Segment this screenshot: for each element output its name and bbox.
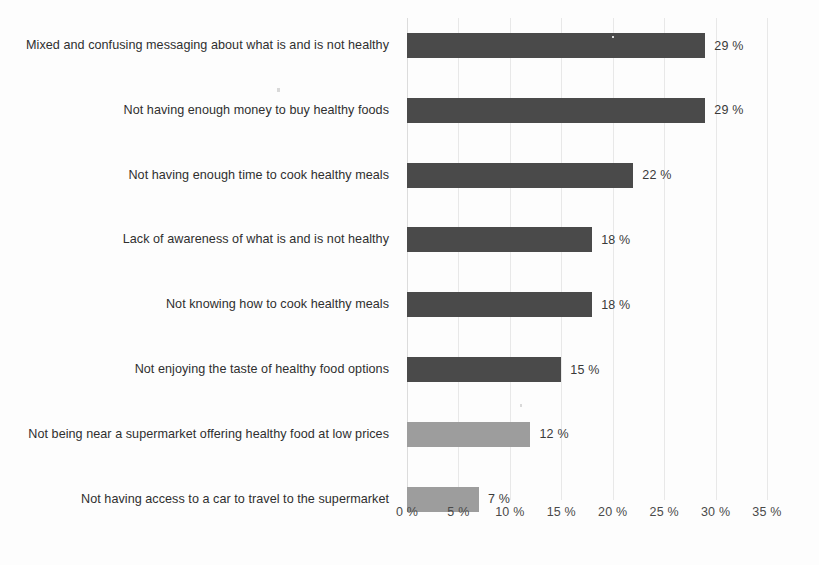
category-label: Lack of awareness of what is and is not … (17, 232, 389, 247)
bar-value-label: 22 % (642, 168, 671, 182)
bar-row[interactable]: 12 % (407, 422, 767, 447)
bar[interactable] (407, 163, 633, 188)
bar[interactable] (407, 33, 705, 58)
x-tick-label-25: 25 % (649, 505, 678, 519)
bar-row[interactable]: 18 % (407, 292, 767, 317)
category-label: Not being near a supermarket offering he… (17, 427, 389, 442)
bar-value-label: 29 % (714, 103, 743, 117)
plot-area: 29 %29 %22 %18 %18 %15 %12 %7 % (407, 18, 767, 500)
bar-value-label: 12 % (539, 427, 568, 441)
bar-value-label: 15 % (570, 363, 599, 377)
bar-series: 29 %29 %22 %18 %18 %15 %12 %7 % (407, 18, 767, 500)
category-label: Mixed and confusing messaging about what… (17, 38, 389, 53)
category-label: Not having access to a car to travel to … (17, 492, 389, 507)
bar-value-label: 29 % (714, 39, 743, 53)
x-tick-label-0: 0 % (396, 505, 418, 519)
bar[interactable] (407, 98, 705, 123)
bar-value-label: 18 % (601, 298, 630, 312)
category-label: Not having enough time to cook healthy m… (17, 168, 389, 183)
x-tick-label-30: 30 % (701, 505, 730, 519)
bar[interactable] (407, 422, 530, 447)
bar-row[interactable]: 29 % (407, 98, 767, 123)
bar-value-label: 18 % (601, 233, 630, 247)
bar-value-label: 7 % (488, 492, 510, 506)
bar-chart: Mixed and confusing messaging about what… (0, 0, 819, 565)
x-tick-label-15: 15 % (547, 505, 576, 519)
x-tick-label-20: 20 % (598, 505, 627, 519)
bar[interactable] (407, 357, 561, 382)
category-label: Not knowing how to cook healthy meals (17, 297, 389, 312)
bar[interactable] (407, 227, 592, 252)
bar-row[interactable]: 18 % (407, 227, 767, 252)
x-tick-label-35: 35 % (752, 505, 781, 519)
bar-row[interactable]: 22 % (407, 163, 767, 188)
bar-row[interactable]: 29 % (407, 33, 767, 58)
gridline-35 (767, 18, 768, 500)
category-label: Not enjoying the taste of healthy food o… (17, 362, 389, 377)
x-tick-label-5: 5 % (447, 505, 469, 519)
x-axis: 0 %5 %10 %15 %20 %25 %30 %35 % (407, 505, 767, 529)
bar-row[interactable]: 15 % (407, 357, 767, 382)
x-tick-label-10: 10 % (495, 505, 524, 519)
bar[interactable] (407, 292, 592, 317)
category-axis: Mixed and confusing messaging about what… (0, 18, 398, 500)
category-label: Not having enough money to buy healthy f… (17, 103, 389, 118)
